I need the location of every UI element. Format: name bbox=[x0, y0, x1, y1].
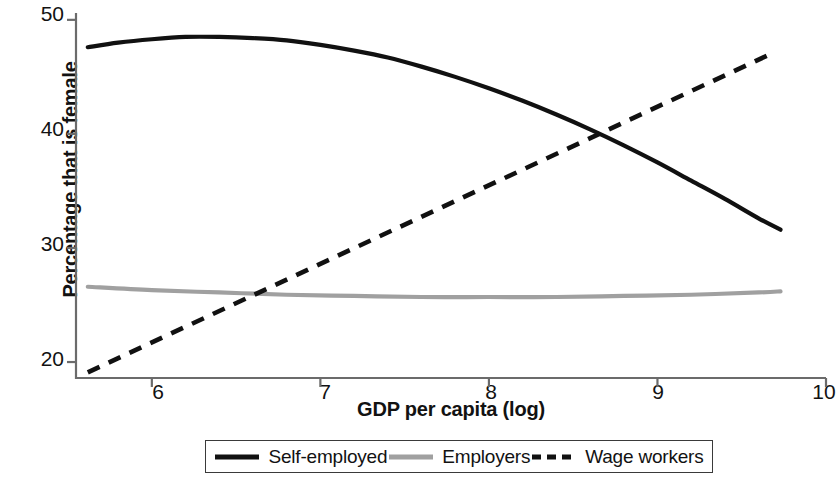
axis-spines bbox=[76, 13, 826, 378]
legend-item-wage-workers: Wage workers bbox=[531, 446, 703, 468]
y-axis-ticks bbox=[67, 20, 76, 362]
series-line-self-employed bbox=[88, 37, 781, 230]
series-line-employers bbox=[88, 287, 781, 297]
chart-legend: Self-employed Employers Wage workers bbox=[205, 440, 713, 473]
data-series-layer bbox=[88, 37, 781, 373]
legend-label-self-employed: Self-employed bbox=[268, 446, 387, 468]
legend-item-self-employed: Self-employed bbox=[214, 446, 387, 468]
solid-black-line-icon bbox=[214, 450, 260, 464]
plot-area bbox=[0, 0, 839, 477]
legend-item-employers: Employers bbox=[388, 446, 530, 468]
solid-gray-line-icon bbox=[388, 450, 434, 464]
legend-label-employers: Employers bbox=[442, 446, 530, 468]
legend-label-wage-workers: Wage workers bbox=[585, 446, 703, 468]
chart-figure: Percentage that is female 50 40 30 20 6 … bbox=[0, 0, 839, 477]
x-axis-ticks bbox=[152, 378, 826, 387]
dashed-black-line-icon bbox=[531, 450, 577, 464]
series-line-wage-workers bbox=[88, 52, 776, 373]
